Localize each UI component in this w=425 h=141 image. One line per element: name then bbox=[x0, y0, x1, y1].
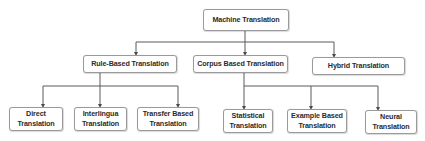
node-label-line1: Direct bbox=[26, 109, 46, 119]
node-label-line1: Example Based bbox=[291, 111, 343, 121]
node-direct-translation: Direct Translation bbox=[9, 107, 63, 131]
node-example-based-translation: Example Based Translation bbox=[287, 109, 347, 133]
node-label: Rule-Based Translation bbox=[91, 59, 169, 69]
node-label-line2: Translation bbox=[149, 119, 186, 129]
node-rule-based-translation: Rule-Based Translation bbox=[83, 55, 177, 73]
node-label-line2: Translation bbox=[372, 122, 409, 132]
node-label-line1: Statistical bbox=[232, 111, 265, 121]
node-label-line2: Translation bbox=[82, 119, 119, 129]
node-label: Machine Translation bbox=[212, 15, 279, 25]
node-label-line2: Translation bbox=[17, 119, 54, 129]
node-neural-translation: Neural Translation bbox=[365, 110, 417, 134]
node-transfer-based-translation: Transfer Based Translation bbox=[137, 107, 199, 131]
node-label-line1: Neural bbox=[380, 112, 402, 122]
node-label: Corpus Based Translation bbox=[197, 59, 284, 69]
node-label-line1: Interlingua bbox=[83, 109, 119, 119]
node-label-line1: Transfer Based bbox=[143, 109, 194, 119]
node-machine-translation: Machine Translation bbox=[203, 9, 289, 31]
node-label-line2: Translation bbox=[229, 121, 266, 131]
node-label: Hybrid Translation bbox=[328, 61, 389, 71]
node-label-line2: Translation bbox=[298, 121, 335, 131]
node-hybrid-translation: Hybrid Translation bbox=[312, 57, 405, 75]
node-interlingua-translation: Interlingua Translation bbox=[74, 107, 127, 131]
machine-translation-diagram: Machine Translation Rule-Based Translati… bbox=[0, 0, 425, 141]
node-statistical-translation: Statistical Translation bbox=[223, 109, 273, 133]
node-corpus-based-translation: Corpus Based Translation bbox=[193, 55, 288, 73]
